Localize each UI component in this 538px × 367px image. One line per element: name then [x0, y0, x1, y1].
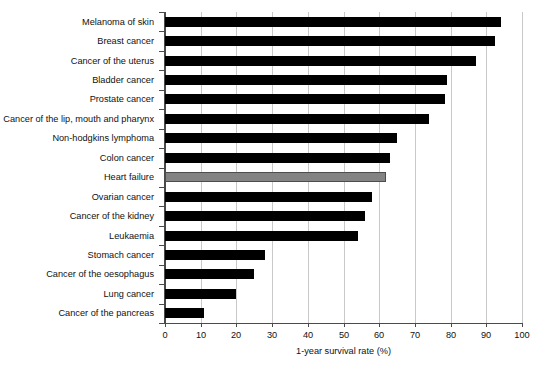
bar [165, 172, 386, 182]
y-axis-tick [159, 12, 164, 13]
y-axis-tick [159, 245, 164, 246]
x-axis-tick-label: 10 [186, 329, 216, 341]
y-axis-tick [159, 265, 164, 266]
plot-area [165, 12, 522, 323]
category-label: Cancer of the pancreas [58, 307, 154, 319]
bar [165, 94, 445, 104]
y-axis-tick [159, 109, 164, 110]
x-axis-tick [522, 323, 523, 327]
y-axis-tick [159, 129, 164, 130]
x-axis-tick-label: 20 [221, 329, 251, 341]
bar [165, 308, 204, 318]
bar [165, 133, 397, 143]
bar [165, 231, 358, 241]
bar [165, 75, 447, 85]
x-axis-tick-label: 40 [293, 329, 323, 341]
y-axis-tick [159, 51, 164, 52]
x-axis-tick-label: 0 [150, 329, 180, 341]
category-label: Breast cancer [97, 35, 154, 47]
bar [165, 289, 236, 299]
category-label: Stomach cancer [88, 249, 154, 261]
y-axis-tick [159, 206, 164, 207]
category-label: Melanoma of skin [82, 16, 154, 28]
category-label: Cancer of the kidney [70, 210, 154, 222]
y-axis-tick [159, 90, 164, 91]
bar [165, 17, 501, 27]
x-axis-tick [165, 323, 166, 327]
bar [165, 250, 265, 260]
y-axis-tick [159, 226, 164, 227]
category-label: Leukaemia [109, 230, 154, 242]
category-label: Colon cancer [100, 152, 154, 164]
category-label: Cancer of the lip, mouth and pharynx [3, 113, 154, 125]
x-axis-tick-label: 80 [436, 329, 466, 341]
bar [165, 211, 365, 221]
category-label: Non-hodgkins lymphoma [52, 132, 154, 144]
category-label: Cancer of the oesophagus [46, 268, 154, 280]
x-axis-tick-label: 30 [257, 329, 287, 341]
y-axis-tick [159, 187, 164, 188]
y-axis-tick [159, 304, 164, 305]
x-axis-tick [486, 323, 487, 327]
bar [165, 114, 429, 124]
bar-chart: Melanoma of skinBreast cancerCancer of t… [0, 0, 538, 367]
x-axis-tick [451, 323, 452, 327]
category-label: Prostate cancer [90, 93, 154, 105]
x-axis-tick [236, 323, 237, 327]
y-axis-line [164, 12, 165, 323]
category-label: Heart failure [104, 171, 154, 183]
category-label: Ovarian cancer [92, 191, 154, 203]
y-axis-tick [159, 323, 164, 324]
x-axis-tick-label: 90 [471, 329, 501, 341]
x-axis-tick [415, 323, 416, 327]
y-axis-tick [159, 168, 164, 169]
x-axis-tick [272, 323, 273, 327]
bar [165, 56, 476, 66]
y-axis-tick [159, 70, 164, 71]
y-axis-tick [159, 31, 164, 32]
x-axis-tick [201, 323, 202, 327]
x-axis-tick-label: 50 [329, 329, 359, 341]
bar [165, 36, 495, 46]
x-axis-tick-label: 100 [507, 329, 537, 341]
x-axis-tick [308, 323, 309, 327]
category-label: Lung cancer [103, 288, 154, 300]
category-axis-labels: Melanoma of skinBreast cancerCancer of t… [0, 12, 160, 323]
x-axis-title: 1-year survival rate (%) [165, 345, 522, 357]
bar [165, 269, 254, 279]
x-axis-tick-label: 60 [364, 329, 394, 341]
x-axis-tick-label: 70 [400, 329, 430, 341]
x-axis-tick [344, 323, 345, 327]
bar [165, 192, 372, 202]
y-axis-tick [159, 284, 164, 285]
gridline-100 [522, 12, 523, 323]
category-label: Cancer of the uterus [71, 55, 154, 67]
x-axis-tick [379, 323, 380, 327]
gridline-90 [486, 12, 487, 323]
y-axis-tick [159, 148, 164, 149]
category-label: Bladder cancer [92, 74, 154, 86]
bar [165, 153, 390, 163]
